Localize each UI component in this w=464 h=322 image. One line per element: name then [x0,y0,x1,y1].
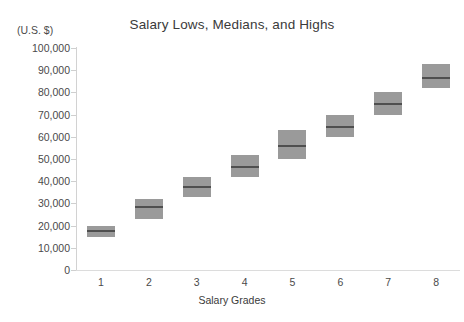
y-axis-tick-mark [71,248,76,249]
x-axis-tick-label: 3 [194,276,200,288]
y-axis-tick-label: 60,000 [38,131,70,143]
x-axis-tick-label: 8 [433,276,439,288]
median-line [326,126,354,128]
median-line [422,77,450,79]
x-axis-tick-label: 7 [385,276,391,288]
y-axis-tick-label: 80,000 [38,86,70,98]
y-axis-tick-mark [71,137,76,138]
y-axis-tick-mark [71,92,76,93]
x-axis-line [76,270,460,271]
y-axis-tick-label: 10,000 [38,242,70,254]
y-axis-tick-label: 20,000 [38,220,70,232]
y-axis-tick-mark [71,159,76,160]
median-line [278,145,306,147]
y-axis-tick-label: 90,000 [38,64,70,76]
y-axis-tick-label: 30,000 [38,197,70,209]
y-axis-tick-mark [71,270,76,271]
salary-range-chart: Salary Lows, Medians, and Highs (U.S. $)… [0,0,464,322]
salary-range-box [422,64,450,88]
median-line [135,206,163,208]
y-axis-tick-mark [71,226,76,227]
y-axis-tick-labels: 010,00020,00030,00040,00050,00060,00070,… [0,0,70,322]
y-axis-tick-label: 70,000 [38,109,70,121]
y-axis-tick-label: 50,000 [38,153,70,165]
y-axis-tick-label: 40,000 [38,175,70,187]
y-axis-tick-mark [71,70,76,71]
median-line [374,103,402,105]
plot-area [77,48,460,270]
y-axis-tick-mark [71,181,76,182]
x-axis-tick-label: 1 [98,276,104,288]
salary-range-box [135,199,163,219]
x-axis-title: Salary Grades [0,294,464,306]
median-line [87,230,115,232]
y-axis-tick-mark [71,48,76,49]
x-axis-tick-label: 5 [290,276,296,288]
x-axis-tick-label: 4 [242,276,248,288]
y-axis-tick-mark [71,203,76,204]
y-axis-tick-mark [71,115,76,116]
median-line [231,166,259,168]
x-axis-tick-label: 6 [337,276,343,288]
x-axis-tick-label: 2 [146,276,152,288]
y-axis-tick-label: 0 [64,264,70,276]
median-line [183,186,211,188]
y-axis-tick-label: 100,000 [32,42,70,54]
